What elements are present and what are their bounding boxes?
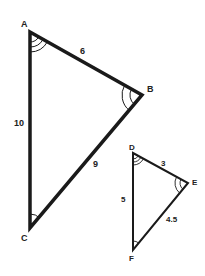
side-label-ac: 10 xyxy=(14,118,24,128)
vertex-label-e: E xyxy=(192,178,198,187)
similar-triangles-diagram: A B C 6 10 9 D E F 3 5 4.5 xyxy=(0,0,205,276)
vertex-label-b: B xyxy=(147,84,154,94)
vertex-label-a: A xyxy=(21,19,28,29)
vertex-label-d: D xyxy=(129,143,135,152)
side-label-de: 3 xyxy=(161,159,166,168)
vertex-label-f: F xyxy=(129,254,134,263)
vertex-label-c: C xyxy=(21,233,28,243)
side-label-bc: 9 xyxy=(93,159,98,169)
side-label-ab: 6 xyxy=(80,46,85,56)
side-label-df: 5 xyxy=(121,195,126,204)
side-label-ef: 4.5 xyxy=(166,215,178,224)
